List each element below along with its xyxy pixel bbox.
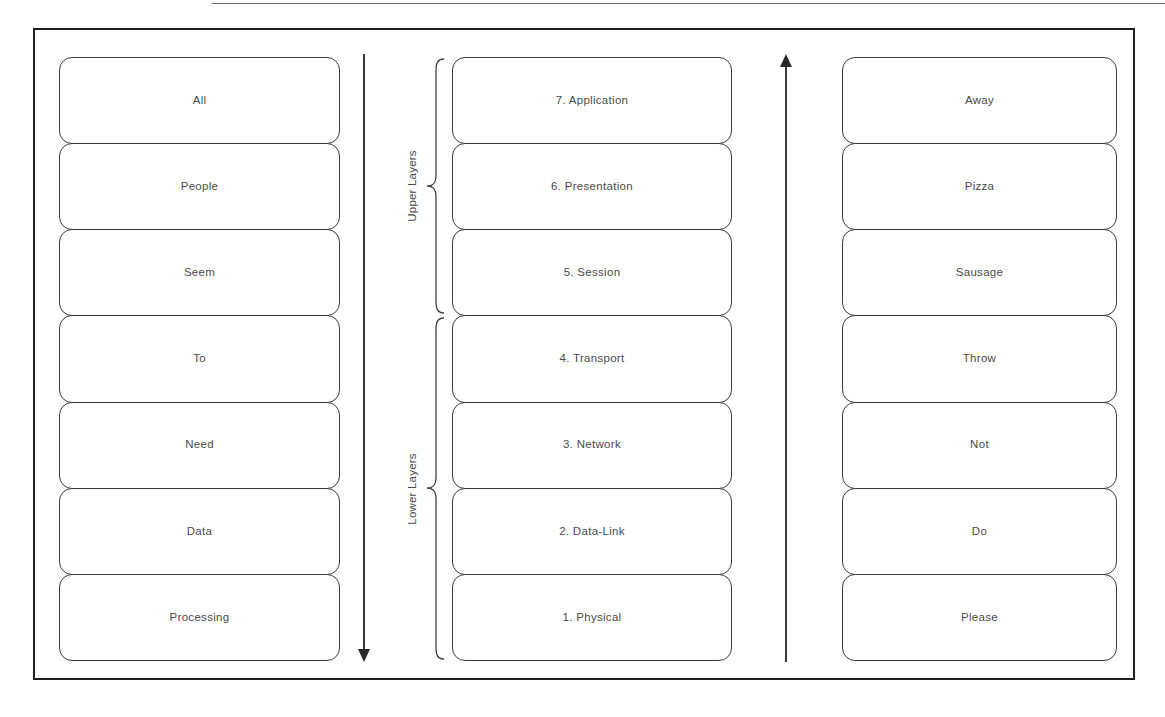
osi-layer-box-7[interactable]: 7. Application: [452, 57, 732, 144]
mnemonic-right-box-2[interactable]: Pizza: [842, 143, 1117, 230]
mnemonic-left-box-7[interactable]: Processing: [59, 574, 340, 661]
brace-upper-icon: [424, 57, 448, 315]
mnemonic-right-label-2: Pizza: [965, 181, 995, 193]
mnemonic-right-label-6: Do: [972, 526, 987, 538]
osi-layer-box-6[interactable]: 6. Presentation: [452, 143, 732, 230]
mnemonic-right-box-1[interactable]: Away: [842, 57, 1117, 144]
mnemonic-column-right: Away Pizza Sausage Throw Not Do Please: [842, 57, 1117, 661]
brace-upper-label: Upper Layers: [406, 106, 418, 266]
brace-lower-layers: Lower Layers: [402, 316, 448, 661]
page-top-rule: [212, 3, 1165, 4]
arrow-up-icon: [779, 54, 793, 662]
mnemonic-left-label-3: Seem: [184, 267, 215, 279]
mnemonic-right-label-3: Sausage: [956, 267, 1004, 279]
mnemonic-left-label-6: Data: [187, 526, 213, 538]
mnemonic-right-label-5: Not: [970, 439, 989, 451]
brace-lower-label: Lower Layers: [406, 409, 418, 569]
mnemonic-column-left: All People Seem To Need Data Processing: [59, 57, 340, 661]
osi-layer-box-5[interactable]: 5. Session: [452, 229, 732, 316]
osi-layer-box-4[interactable]: 4. Transport: [452, 315, 732, 402]
mnemonic-left-label-7: Processing: [170, 612, 230, 624]
osi-layer-label-4: 4. Transport: [560, 353, 625, 365]
mnemonic-left-box-4[interactable]: To: [59, 315, 340, 402]
osi-layer-label-7: 7. Application: [556, 95, 629, 107]
arrow-down-icon: [357, 54, 371, 662]
mnemonic-right-box-6[interactable]: Do: [842, 488, 1117, 575]
mnemonic-right-box-3[interactable]: Sausage: [842, 229, 1117, 316]
osi-layer-label-3: 3. Network: [563, 439, 621, 451]
osi-layer-box-2[interactable]: 2. Data-Link: [452, 488, 732, 575]
arrow-up-head: [780, 54, 792, 67]
mnemonic-right-box-4[interactable]: Throw: [842, 315, 1117, 402]
osi-layer-box-3[interactable]: 3. Network: [452, 402, 732, 489]
mnemonic-right-label-1: Away: [965, 95, 994, 107]
mnemonic-left-label-5: Need: [185, 439, 214, 451]
mnemonic-right-label-7: Please: [961, 612, 998, 624]
osi-layer-box-1[interactable]: 1. Physical: [452, 574, 732, 661]
osi-layer-column: 7. Application 6. Presentation 5. Sessio…: [452, 57, 732, 661]
figure-frame: All People Seem To Need Data Processing …: [33, 28, 1135, 680]
mnemonic-left-box-3[interactable]: Seem: [59, 229, 340, 316]
mnemonic-left-box-6[interactable]: Data: [59, 488, 340, 575]
osi-layer-label-5: 5. Session: [564, 267, 621, 279]
arrow-up-shaft: [785, 66, 787, 662]
brace-upper-layers: Upper Layers: [402, 57, 448, 315]
arrow-down-head: [358, 649, 370, 662]
mnemonic-left-label-2: People: [181, 181, 219, 193]
mnemonic-left-label-4: To: [193, 353, 206, 365]
osi-layer-label-1: 1. Physical: [563, 612, 622, 624]
arrow-down-shaft: [363, 54, 365, 650]
mnemonic-right-label-4: Throw: [963, 353, 996, 365]
mnemonic-left-label-1: All: [193, 95, 207, 107]
mnemonic-left-box-2[interactable]: People: [59, 143, 340, 230]
mnemonic-right-box-7[interactable]: Please: [842, 574, 1117, 661]
osi-layer-label-2: 2. Data-Link: [559, 526, 625, 538]
mnemonic-right-box-5[interactable]: Not: [842, 402, 1117, 489]
mnemonic-left-box-1[interactable]: All: [59, 57, 340, 144]
mnemonic-left-box-5[interactable]: Need: [59, 402, 340, 489]
brace-lower-icon: [424, 316, 448, 661]
osi-layer-label-6: 6. Presentation: [551, 181, 633, 193]
